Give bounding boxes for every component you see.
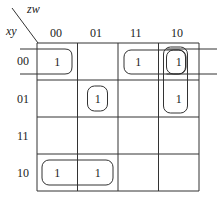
row-label-11: 11 [17, 130, 29, 142]
col-variable-label: zw [27, 3, 40, 15]
col-label-10: 10 [171, 27, 183, 39]
karnaugh-map [0, 0, 218, 198]
row-variable-label: xy [6, 25, 17, 37]
cell-01-10: 1 [176, 93, 182, 105]
cell-10-01: 1 [95, 167, 101, 179]
cell-00-10: 1 [176, 56, 182, 68]
cell-00-00: 1 [54, 56, 60, 68]
col-label-11: 11 [130, 27, 142, 39]
col-label-01: 01 [90, 27, 102, 39]
row-label-10: 10 [17, 167, 29, 179]
col-label-00: 00 [50, 27, 62, 39]
row-label-01: 01 [17, 93, 29, 105]
cell-01-01: 1 [95, 93, 101, 105]
row-label-00: 00 [17, 55, 29, 67]
cell-00-11: 1 [135, 56, 141, 68]
cell-10-00: 1 [54, 167, 60, 179]
grid [37, 43, 199, 191]
